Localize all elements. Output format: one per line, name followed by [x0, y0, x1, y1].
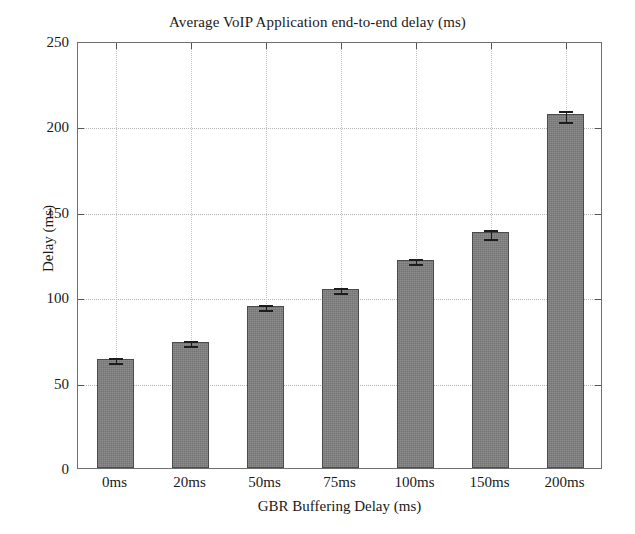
error-bar-cap-lower [409, 264, 423, 266]
y-axis-label: Delay (ms) [40, 169, 57, 309]
y-axis-tick-label: 0 [9, 461, 69, 478]
error-bar-cap-upper [109, 358, 123, 360]
x-axis-tick-label: 75ms [323, 474, 356, 491]
y-axis-tick [78, 299, 84, 300]
y-axis-tick [78, 385, 84, 386]
error-bar-cap-upper [409, 259, 423, 261]
y-axis-tick [78, 128, 84, 129]
y-axis-tick [595, 299, 601, 300]
x-axis-tick-label: 0ms [102, 474, 127, 491]
error-bar-cap-upper [184, 341, 198, 343]
error-bar-cap-lower [109, 363, 123, 365]
x-axis-tick-label: 150ms [469, 474, 509, 491]
error-bar-cap-upper [259, 305, 273, 307]
y-axis-tick [78, 214, 84, 215]
error-bar-cap-lower [259, 310, 273, 312]
x-axis-tick [416, 43, 417, 49]
error-bar-cap-lower [484, 239, 498, 241]
y-axis-tick-label: 200 [9, 119, 69, 136]
error-bar-cap-upper [334, 288, 348, 290]
y-axis-tick-label: 150 [9, 204, 69, 221]
y-axis-tick [595, 128, 601, 129]
bar [397, 260, 434, 468]
error-bar-cap-upper [484, 230, 498, 232]
error-bar-cap-upper [559, 111, 573, 113]
bar [547, 114, 584, 468]
x-axis-tick [491, 43, 492, 49]
x-axis-tick-label: 200ms [544, 474, 584, 491]
y-axis-tick-label: 250 [9, 34, 69, 51]
error-bar-cap-lower [334, 293, 348, 295]
x-axis-tick [566, 43, 567, 49]
x-axis-tick [341, 43, 342, 49]
y-gridline [78, 214, 601, 215]
x-axis-tick-label: 20ms [173, 474, 206, 491]
x-axis-label: GBR Buffering Delay (ms) [77, 498, 602, 515]
plot-inner [78, 43, 601, 468]
error-bar-cap-lower [184, 346, 198, 348]
y-axis-tick-label: 100 [9, 290, 69, 307]
y-axis-tick [595, 385, 601, 386]
x-axis-tick [191, 43, 192, 49]
bar [172, 342, 209, 468]
y-axis-tick [595, 214, 601, 215]
x-axis-tick [266, 43, 267, 49]
x-axis-tick-label: 50ms [248, 474, 281, 491]
bar [472, 232, 509, 468]
x-axis-tick-label: 100ms [394, 474, 434, 491]
error-bar-cap-lower [559, 122, 573, 124]
y-gridline [78, 128, 601, 129]
plot-area [77, 42, 602, 469]
x-axis-tick [116, 43, 117, 49]
bar [97, 359, 134, 468]
bar [322, 289, 359, 468]
chart-title: Average VoIP Application end-to-end dela… [0, 14, 635, 31]
y-axis-tick-label: 50 [9, 375, 69, 392]
chart-figure: Average VoIP Application end-to-end dela… [0, 0, 635, 534]
bar [247, 306, 284, 468]
